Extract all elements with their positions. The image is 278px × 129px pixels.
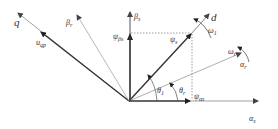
beta-r-label: βr xyxy=(65,18,73,28)
d-axis xyxy=(191,14,209,34)
q-axis-label: q xyxy=(14,16,20,28)
psi-beta-s-label: ψβs xyxy=(113,32,124,42)
theta-1-label: θ1 xyxy=(157,86,164,96)
beta-r-axis xyxy=(77,15,129,101)
alpha-s-label: αs xyxy=(249,114,256,124)
omega-1-label: ω1 xyxy=(208,26,217,36)
u-qp-vector xyxy=(41,32,129,101)
alpha-r-label: αr xyxy=(240,60,247,70)
psi-alpha-s-label: ψαs xyxy=(194,92,205,102)
theta-r-arc xyxy=(170,83,178,101)
beta-s-label: βs xyxy=(133,12,141,22)
psi-s-label: ψs xyxy=(170,35,178,45)
omega-r-label: ωr xyxy=(228,47,237,57)
u-qp-label: uqp xyxy=(36,38,46,48)
vector-diagram: q uqp βr βs ψβs ψs d ω1 ωr αr θ1 θr ψαs … xyxy=(0,0,278,129)
d-axis-label: d xyxy=(211,11,217,23)
theta-r-label: θr xyxy=(179,86,186,96)
